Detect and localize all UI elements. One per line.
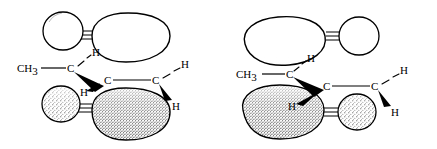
right-upper-orbital-neck (326, 32, 340, 40)
left-carbon-2-label: C (104, 74, 111, 86)
left-lower-large-lobe (92, 88, 170, 140)
left-hydrogen-top-label: H (92, 46, 100, 58)
left-bond-c3-h-dashed (163, 68, 180, 78)
right-carbon-2-label: C (323, 80, 330, 92)
left-hydrogen-mid-label: H (80, 86, 88, 98)
right-hydrogen-upper-right-label: H (400, 64, 408, 76)
diagram-canvas: CH3 C C C H H H H (0, 0, 437, 149)
right-hydrogen-lower-right-label: H (391, 106, 399, 118)
right-wedge-c3-h (378, 90, 391, 107)
left-upper-small-lobe (43, 12, 83, 50)
right-orbital-structure: CH3 C C C H H H H (236, 17, 408, 139)
left-wedge-c1-c2 (74, 72, 104, 92)
right-lower-orbital (243, 85, 376, 139)
left-upper-orbital (43, 12, 170, 62)
right-hydrogen-top-label: H (307, 52, 315, 64)
right-carbon-1-label: C (286, 68, 293, 80)
left-carbon-3-label: C (152, 74, 159, 86)
right-carbon-3-label: C (371, 80, 378, 92)
left-lower-small-lobe (42, 86, 80, 122)
right-lower-small-lobe (338, 94, 376, 130)
right-methyl-label: CH3 (236, 68, 257, 83)
right-hydrogen-mid-label: H (288, 100, 296, 112)
left-orbital-structure: CH3 C C C H H H H (17, 12, 189, 140)
left-carbon-1-label: C (67, 62, 74, 74)
right-lower-orbital-neck (324, 108, 338, 116)
left-hydrogen-upper-right-label: H (181, 58, 189, 70)
left-upper-large-lobe (92, 13, 170, 62)
left-bond-c1-h-dashed (78, 55, 91, 66)
chemical-structure-svg: CH3 C C C H H H H (0, 0, 437, 149)
left-methyl-label: CH3 (17, 62, 38, 77)
left-hydrogen-lower-right-label: H (172, 100, 180, 112)
left-lower-orbital (42, 86, 170, 140)
right-bond-c3-h-dashed (382, 74, 399, 84)
right-upper-small-lobe (339, 17, 379, 55)
